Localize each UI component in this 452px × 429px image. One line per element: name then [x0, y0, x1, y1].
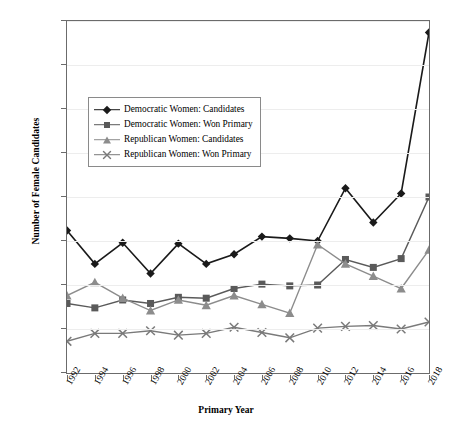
data-point-marker: [424, 245, 429, 254]
gridline: [67, 197, 429, 198]
y-axis-title: Number of Female Candidates: [31, 81, 41, 281]
gridline: [67, 241, 429, 242]
data-point-marker: [67, 300, 71, 307]
legend-item: Democratic Women: Won Primary: [94, 117, 253, 132]
gridline: [67, 65, 429, 66]
data-point-marker: [370, 264, 377, 271]
legend-item-label: Democratic Women: Won Primary: [124, 120, 253, 129]
data-point-marker: [398, 255, 405, 262]
x-tick-mark: [373, 375, 374, 380]
x-tick-mark: [67, 375, 68, 380]
legend-item-label: Democratic Women: Candidates: [124, 105, 244, 114]
series-line: [67, 197, 429, 308]
legend: Democratic Women: CandidatesDemocratic W…: [88, 97, 261, 167]
data-point-marker: [229, 291, 238, 300]
data-point-marker: [91, 304, 98, 311]
data-point-marker: [146, 306, 155, 315]
legend-item-label: Republican Women: Candidates: [124, 135, 243, 144]
data-series: [67, 240, 429, 317]
x-marker-icon: [94, 149, 120, 161]
x-tick-mark: [151, 375, 152, 380]
triangle-marker-icon: [94, 134, 120, 146]
x-tick-mark: [95, 375, 96, 380]
diamond-marker-icon: [94, 104, 120, 116]
x-tick-mark: [345, 375, 346, 380]
square-marker-icon: [94, 119, 120, 131]
x-tick-mark: [234, 375, 235, 380]
x-tick-mark: [318, 375, 319, 380]
data-point-marker: [425, 28, 429, 36]
x-tick-mark: [262, 375, 263, 380]
gridline: [67, 21, 429, 22]
legend-item: Republican Women: Candidates: [94, 132, 253, 147]
x-axis-title: Primary Year: [0, 405, 452, 415]
data-point-marker: [258, 232, 266, 240]
legend-item-label: Republican Women: Won Primary: [124, 150, 252, 159]
data-point-marker: [230, 250, 238, 258]
plot-area: [66, 20, 430, 374]
legend-item: Republican Women: Won Primary: [94, 147, 253, 162]
data-point-marker: [369, 272, 378, 281]
x-tick-mark: [123, 375, 124, 380]
x-tick-mark: [206, 375, 207, 380]
x-tick-label: 2018: [427, 344, 452, 387]
legend-item: Democratic Women: Candidates: [94, 102, 253, 117]
data-series: [67, 318, 429, 346]
x-tick-mark: [429, 375, 430, 380]
x-tick-mark: [401, 375, 402, 380]
x-tick-mark: [290, 375, 291, 380]
chart-figure: Number of Female Candidates 050100150200…: [0, 0, 452, 429]
x-tick-mark: [178, 375, 179, 380]
gridline: [67, 329, 429, 330]
gridline: [67, 285, 429, 286]
data-series: [67, 194, 429, 312]
